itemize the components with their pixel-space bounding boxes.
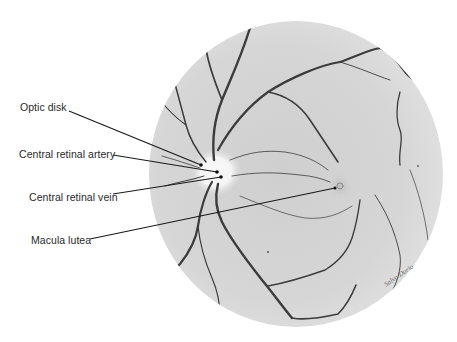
fundus-illustration: Salvo Dorio bbox=[0, 0, 457, 342]
label-macula-lutea: Macula lutea bbox=[31, 234, 91, 246]
retina-diagram: Salvo Dorio Optic disk Central retinal a… bbox=[0, 0, 457, 342]
label-central-retinal-artery: Central retinal artery bbox=[19, 148, 115, 160]
label-central-retinal-vein: Central retinal vein bbox=[29, 191, 118, 203]
label-optic-disk: Optic disk bbox=[20, 101, 67, 113]
